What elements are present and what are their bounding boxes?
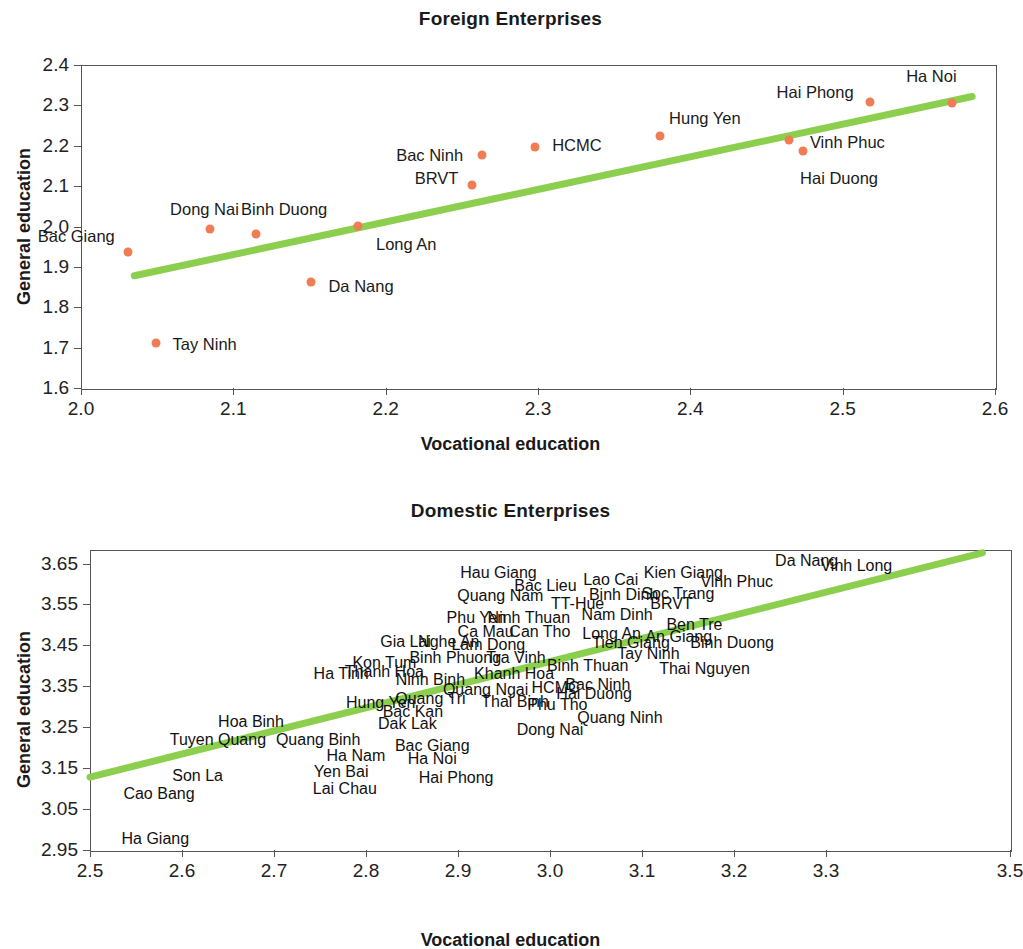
data-point-label: Da Nang — [328, 277, 393, 296]
x-tick-mark — [995, 388, 996, 395]
data-point-marker[interactable] — [206, 224, 215, 233]
data-point-marker[interactable] — [477, 151, 486, 160]
x-tick-label: 2.5 — [829, 398, 855, 420]
data-point-label[interactable]: Can Tho — [509, 623, 570, 641]
x-tick-label: 2.0 — [68, 398, 94, 420]
x-tick-label: 2.9 — [445, 860, 471, 882]
y-tick-label: 1.7 — [15, 337, 69, 359]
data-point-label[interactable]: Yen Bai — [314, 763, 369, 781]
x-tick-label: 3.3 — [813, 860, 839, 882]
x-tick-label: 2.2 — [372, 398, 398, 420]
data-point-label: BRVT — [415, 168, 459, 187]
x-tick-mark — [734, 850, 735, 857]
y-tick-mark — [83, 809, 90, 810]
data-point-label[interactable]: Binh Duong — [690, 634, 774, 652]
x-tick-mark — [826, 850, 827, 857]
y-tick-mark — [83, 768, 90, 769]
x-tick-mark — [550, 850, 551, 857]
y-tick-mark — [83, 727, 90, 728]
data-point-label: Vinh Phuc — [810, 133, 885, 152]
data-point-label[interactable]: Cao Bang — [123, 785, 194, 803]
x-tick-label: 2.6 — [169, 860, 195, 882]
data-point-marker[interactable] — [866, 98, 875, 107]
data-point-label[interactable]: Bac Lieu — [514, 577, 576, 595]
data-point-label[interactable]: Ben Tre — [666, 616, 722, 634]
y-tick-mark — [83, 645, 90, 646]
data-point-label[interactable]: Tra Vinh — [486, 649, 546, 667]
data-point-label[interactable]: Vinh Phuc — [700, 573, 773, 591]
x-tick-label: 3.0 — [537, 860, 563, 882]
data-point-label[interactable]: Bac Ninh — [565, 676, 630, 694]
y-tick-label: 2.1 — [15, 175, 69, 197]
y-tick-mark — [74, 186, 81, 187]
data-point-label: HCMC — [552, 135, 602, 154]
y-tick-mark — [74, 267, 81, 268]
data-point-label[interactable]: Ha Giang — [122, 830, 190, 848]
y-tick-label: 1.9 — [15, 256, 69, 278]
x-tick-label: 3.2 — [721, 860, 747, 882]
data-point-marker[interactable] — [468, 180, 477, 189]
x-axis-label-domestic: Vocational education — [0, 930, 1021, 949]
x-axis-label-foreign: Vocational education — [0, 434, 1021, 455]
x-tick-label: 3.1 — [629, 860, 655, 882]
data-point-marker[interactable] — [354, 222, 363, 231]
data-point-label: Long An — [376, 235, 437, 254]
data-point-marker[interactable] — [948, 99, 957, 108]
data-point-marker[interactable] — [799, 146, 808, 155]
x-tick-mark — [274, 850, 275, 857]
y-tick-label: 3.35 — [24, 675, 78, 697]
data-point-label: Hai Duong — [800, 168, 878, 187]
data-point-label[interactable]: Dak Lak — [378, 715, 437, 733]
chart-panel-domestic: Domestic Enterprises General education V… — [0, 478, 1021, 949]
x-tick-mark — [81, 388, 82, 395]
x-tick-label: 2.4 — [677, 398, 703, 420]
data-point-marker[interactable] — [151, 338, 160, 347]
data-point-label[interactable]: Lai Chau — [313, 780, 377, 798]
y-tick-label: 2.2 — [15, 135, 69, 157]
data-point-label: Binh Duong — [241, 199, 327, 218]
x-tick-label: 3.5 — [997, 860, 1023, 882]
x-tick-mark — [366, 850, 367, 857]
data-point-marker[interactable] — [530, 142, 539, 151]
y-tick-label: 3.25 — [24, 716, 78, 738]
x-tick-mark — [233, 388, 234, 395]
data-point-label[interactable]: Nam Dinh — [582, 606, 653, 624]
data-point-label[interactable]: Son La — [172, 767, 223, 785]
x-tick-mark — [843, 388, 844, 395]
x-tick-mark — [690, 388, 691, 395]
data-point-label[interactable]: Kon Tum — [352, 654, 416, 672]
data-point-label[interactable]: Tuyen Quang — [170, 731, 266, 749]
data-point-label[interactable]: Thai Nguyen — [659, 660, 750, 678]
data-point-label[interactable]: Ha Noi — [408, 750, 457, 768]
data-point-label[interactable]: Hai Phong — [419, 769, 494, 787]
data-point-label[interactable]: Ha Nam — [327, 747, 386, 765]
x-tick-label: 2.8 — [353, 860, 379, 882]
data-point-marker[interactable] — [124, 247, 133, 256]
y-tick-label: 2.4 — [15, 54, 69, 76]
y-tick-mark — [83, 686, 90, 687]
x-tick-mark — [458, 850, 459, 857]
chart-title-foreign: Foreign Enterprises — [0, 8, 1021, 30]
y-tick-label: 1.8 — [15, 296, 69, 318]
data-point-marker[interactable] — [252, 229, 261, 238]
data-point-label[interactable]: Vinh Long — [820, 557, 892, 575]
x-tick-label: 2.1 — [220, 398, 246, 420]
data-point-label[interactable]: Quang Ninh — [577, 709, 662, 727]
x-tick-label: 2.5 — [77, 860, 103, 882]
x-tick-mark — [1010, 850, 1011, 857]
x-tick-label: 2.6 — [982, 398, 1008, 420]
data-point-label[interactable]: Hoa Binh — [218, 713, 284, 731]
x-tick-label: 2.7 — [261, 860, 287, 882]
y-tick-mark — [74, 348, 81, 349]
data-point-label: Ha Noi — [906, 67, 956, 86]
data-point-label[interactable]: Binh Thuan — [547, 657, 629, 675]
data-point-label: Bac Giang — [38, 226, 115, 245]
y-tick-label: 1.6 — [15, 377, 69, 399]
data-point-marker[interactable] — [307, 278, 316, 287]
data-point-label: Bac Ninh — [396, 146, 463, 165]
y-tick-mark — [74, 146, 81, 147]
data-point-marker[interactable] — [785, 136, 794, 145]
data-point-label[interactable]: Dong Nai — [517, 721, 584, 739]
y-tick-label: 3.55 — [24, 593, 78, 615]
data-point-marker[interactable] — [655, 132, 664, 141]
